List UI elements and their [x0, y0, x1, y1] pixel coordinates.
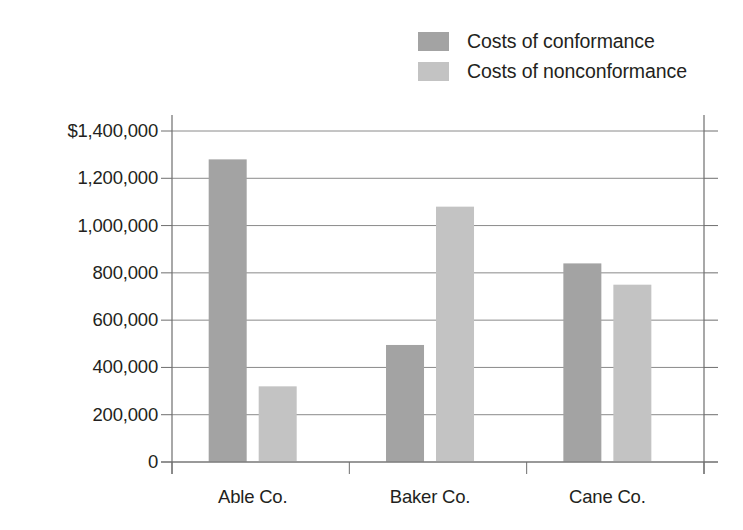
bar-cane-co--nonconformance: [613, 285, 651, 462]
plot-canvas: [0, 0, 743, 530]
bar-baker-co--conformance: [386, 345, 424, 462]
bar-able-co--conformance: [209, 159, 247, 462]
bar-baker-co--nonconformance: [436, 207, 474, 462]
bar-cane-co--conformance: [563, 263, 601, 462]
bar-able-co--nonconformance: [259, 386, 297, 462]
bar-chart: Costs of conformance Costs of nonconform…: [0, 0, 743, 530]
